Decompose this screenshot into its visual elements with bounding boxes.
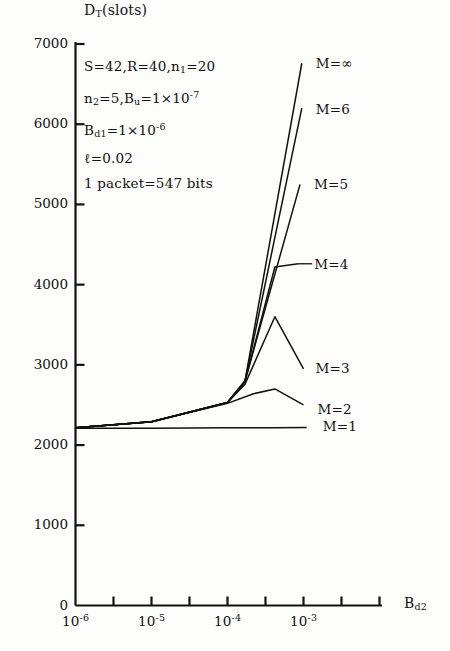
y-tick-label: 1000 <box>16 516 68 532</box>
annotation-line-3: Bd1=1×10-6 <box>84 114 215 146</box>
curve-label-inf: M=∞ <box>316 55 353 71</box>
x-tick-mantissa: 10 <box>138 613 156 629</box>
y-tick-label: 7000 <box>16 35 68 51</box>
x-tick-mantissa: 10 <box>290 613 308 629</box>
x-tick-mantissa: 10 <box>62 613 80 629</box>
x-tick-exponent: -5 <box>155 612 165 623</box>
y-tick-label: 5000 <box>16 195 68 211</box>
x-tick-label: 10-4 <box>203 612 253 629</box>
annotation-line-5: 1 packet=547 bits <box>84 171 215 196</box>
curve-label-m6: M=6 <box>316 101 350 117</box>
x-axis-title-main: B <box>404 595 415 611</box>
parameter-annotation-block: S=42,R=40,n1=20 n2=5,Bu=1×10-7 Bd1=1×10-… <box>84 54 215 196</box>
curve-m3 <box>76 317 304 428</box>
curve-m2 <box>76 389 304 428</box>
curve-m1 <box>76 427 307 428</box>
x-axis-title-sub: d2 <box>415 601 428 612</box>
curve-label-m4: M=4 <box>314 256 348 272</box>
x-tick-label: 10-3 <box>279 612 329 629</box>
chart-canvas <box>0 0 450 651</box>
x-tick-label: 10-6 <box>51 612 101 629</box>
x-tick-label: 10-5 <box>127 612 177 629</box>
y-axis-title-rest: (slots) <box>102 2 147 18</box>
annotation-line-1: S=42,R=40,n1=20 <box>84 54 215 82</box>
x-axis-ticks <box>114 597 380 606</box>
x-tick-exponent: -6 <box>79 612 89 623</box>
curve-label-m2: M=2 <box>318 401 352 417</box>
y-axis-title: DT(slots) <box>84 2 147 19</box>
annotation-line-4: ℓ=0.02 <box>84 146 215 171</box>
x-tick-exponent: -3 <box>307 612 317 623</box>
x-axis-title: Bd2 <box>404 595 427 612</box>
annotation-line-2: n2=5,Bu=1×10-7 <box>84 82 215 114</box>
y-tick-label: 0 <box>16 597 68 613</box>
y-tick-label: 3000 <box>16 356 68 372</box>
curve-label-m1: M=1 <box>323 418 357 434</box>
y-tick-label: 6000 <box>16 115 68 131</box>
y-tick-label: 2000 <box>16 436 68 452</box>
curve-label-m3: M=3 <box>316 360 350 376</box>
y-tick-label: 4000 <box>16 276 68 292</box>
x-tick-exponent: -4 <box>231 612 241 623</box>
x-tick-mantissa: 10 <box>214 613 232 629</box>
y-axis-title-main: D <box>84 2 95 18</box>
curve-label-m5: M=5 <box>314 176 348 192</box>
